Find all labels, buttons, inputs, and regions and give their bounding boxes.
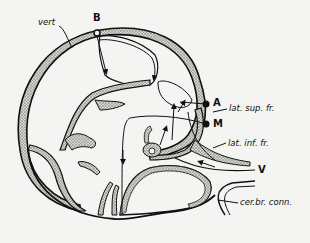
pillar-right — [112, 185, 119, 215]
point-B — [94, 30, 100, 36]
diagram: vert B A M lat. sup. fr. lat. inf. fr. V… — [0, 0, 310, 243]
branch-upper — [95, 100, 125, 110]
branch-small — [78, 162, 100, 175]
upper-chamber — [99, 36, 157, 86]
branch-lower — [65, 134, 96, 150]
lower-right-band — [120, 166, 211, 215]
label-lat-sup-fr: lat. sup. fr. — [229, 103, 274, 113]
pillar-left — [98, 182, 113, 215]
label-A: A — [213, 97, 221, 108]
label-lat-inf-fr: lat. inf. fr. — [228, 138, 269, 148]
label-B: B — [93, 12, 101, 23]
label-cer-br-conn: cer.br. conn. — [240, 197, 292, 207]
label-V: V — [258, 164, 266, 175]
organ-stalk — [144, 126, 152, 143]
label-M: M — [213, 118, 223, 129]
label-vert: vert — [38, 17, 55, 27]
